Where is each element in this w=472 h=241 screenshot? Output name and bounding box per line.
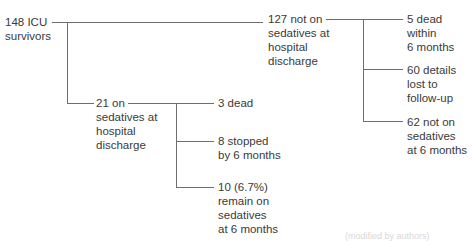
edge-on-to-dead bbox=[128, 103, 214, 104]
node-root: 148 ICU survivors bbox=[5, 15, 51, 43]
node-not-on-sedatives: 127 not on sedatives at hospital dischar… bbox=[268, 12, 329, 68]
edge-on-trunk bbox=[176, 103, 177, 187]
footer-fragment: (modified by authors) bbox=[345, 231, 430, 241]
edge-not-on-to-dead bbox=[326, 19, 403, 20]
node-on-remain: 10 (6.7%) remain on sedatives at 6 month… bbox=[218, 180, 278, 236]
edge-not-on-to-still bbox=[363, 121, 403, 122]
edge-root-to-on bbox=[67, 103, 94, 104]
edge-on-to-stopped bbox=[176, 141, 214, 142]
edge-root-to-not-on bbox=[52, 22, 263, 23]
node-not-on-dead: 5 dead within 6 months bbox=[407, 12, 454, 54]
node-on-dead: 3 dead bbox=[218, 96, 253, 110]
edge-on-to-remain bbox=[176, 187, 214, 188]
node-not-on-lost: 60 details lost to follow-up bbox=[407, 63, 456, 105]
edge-not-on-to-lost bbox=[363, 69, 403, 70]
node-not-on-still: 62 not on sedatives at 6 months bbox=[407, 115, 467, 157]
node-on-sedatives: 21 on sedatives at hospital discharge bbox=[96, 96, 157, 152]
edge-root-trunk bbox=[67, 22, 68, 103]
edge-not-on-trunk bbox=[363, 19, 364, 121]
node-on-stopped: 8 stopped by 6 months bbox=[218, 134, 281, 162]
